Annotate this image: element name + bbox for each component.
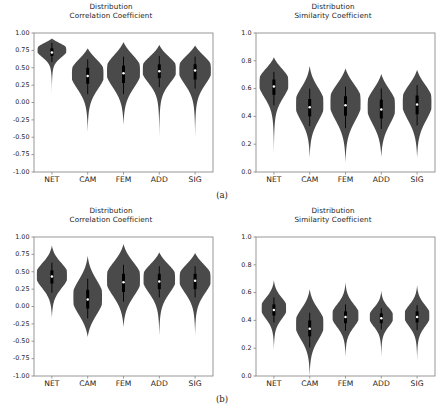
y-tick-label: 1.00 [15, 29, 29, 37]
y-tick-label: 0.6 [241, 84, 251, 92]
panel-b-left: Distribution Correlation Coefficient -1.… [0, 204, 222, 390]
x-tick-label-CAM: CAM [79, 175, 96, 184]
y-tick-label: 0.00 [15, 98, 29, 106]
y-tick-label: -0.50 [13, 337, 30, 345]
violin-median-marker [51, 275, 54, 278]
violin-median-marker [308, 106, 311, 109]
panel-a-right: Distribution Similarity Coefficient 0.00… [222, 0, 444, 186]
violin-median-marker [416, 103, 419, 106]
y-tick-label: 0.6 [241, 288, 251, 296]
violin-ADD [143, 45, 176, 140]
violin-NET [262, 280, 286, 350]
violin-ADD [368, 74, 395, 157]
violin-median-marker [273, 309, 276, 312]
violin-SIG [179, 46, 211, 139]
violin-median-marker [308, 327, 311, 330]
y-tick-label: 0.4 [241, 316, 251, 324]
y-tick-label: 1.0 [241, 233, 251, 241]
y-tick-label: 0.25 [15, 285, 29, 293]
panel-b-right: Distribution Similarity Coefficient 0.00… [222, 204, 444, 390]
violin-ADD [144, 252, 176, 336]
x-tick-label-ADD: ADD [373, 175, 390, 184]
x-tick-label-CAM: CAM [301, 175, 318, 184]
y-tick-label: -0.25 [13, 116, 30, 124]
violin-CAM [72, 48, 104, 132]
y-tick-label: 0.25 [15, 81, 29, 89]
y-tick-label: 0.8 [241, 261, 251, 269]
y-tick-label: -0.50 [13, 133, 30, 141]
x-tick-label-FEM: FEM [338, 379, 354, 388]
violin-chart-a-right: 0.00.20.40.60.81.0NETCAMFEMADDSIG [222, 0, 444, 186]
violin-median-marker [122, 72, 125, 75]
violin-chart-b-left: -1.00-0.75-0.50-0.250.000.250.500.751.00… [0, 204, 222, 390]
x-tick-label-SIG: SIG [189, 379, 202, 388]
y-tick-label: 0.0 [241, 168, 251, 176]
violin-median-marker [86, 75, 89, 78]
violin-FEM [330, 68, 360, 163]
violin-SIG [403, 70, 432, 158]
x-tick-label-NET: NET [44, 175, 59, 184]
violin-SIG [180, 253, 211, 336]
x-tick-label-SIG: SIG [411, 379, 424, 388]
violin-FEM [107, 42, 140, 125]
violin-median-marker [380, 317, 383, 320]
y-tick-label: 0.2 [241, 344, 251, 352]
violin-median-marker [158, 70, 161, 73]
violin-NET [260, 57, 289, 156]
violin-median-marker [380, 108, 383, 111]
subfigure-a: Distribution Correlation Coefficient -1.… [0, 0, 444, 206]
violin-chart-a-left: -1.00-0.75-0.50-0.250.000.250.500.751.00… [0, 0, 222, 186]
y-tick-label: 1.0 [241, 29, 251, 37]
x-tick-label-FEM: FEM [338, 175, 354, 184]
x-tick-label-ADD: ADD [151, 379, 168, 388]
x-tick-label-NET: NET [266, 379, 281, 388]
violin-FEM [333, 282, 359, 357]
x-tick-label-NET: NET [266, 175, 281, 184]
y-tick-label: 0.50 [15, 64, 29, 72]
y-tick-label: -0.75 [13, 150, 30, 158]
violin-FEM [107, 244, 140, 327]
y-tick-label: 0.8 [241, 57, 251, 65]
violin-median-marker [158, 280, 161, 283]
y-tick-label: -0.25 [13, 320, 30, 328]
x-tick-label-CAM: CAM [79, 379, 96, 388]
violin-CAM [73, 256, 102, 337]
violin-plot-figure: Distribution Correlation Coefficient -1.… [0, 0, 444, 413]
subfigure-caption-b: (b) [0, 394, 444, 404]
y-tick-label: 0.2 [241, 140, 251, 148]
violin-median-marker [194, 69, 197, 72]
y-tick-label: -1.00 [13, 372, 30, 380]
y-tick-label: 0.0 [241, 372, 251, 380]
violin-median-marker [344, 104, 347, 107]
violin-median-marker [51, 51, 54, 54]
x-tick-label-FEM: FEM [116, 175, 132, 184]
violin-median-marker [194, 280, 197, 283]
violin-NET [37, 245, 67, 318]
violin-ADD [370, 291, 393, 358]
x-tick-label-NET: NET [44, 379, 59, 388]
x-tick-label-ADD: ADD [373, 379, 390, 388]
y-tick-label: 0.00 [15, 302, 29, 310]
y-tick-label: 0.4 [241, 112, 251, 120]
violin-CAM [296, 289, 323, 376]
violin-median-marker [86, 298, 89, 301]
violin-NET [38, 39, 67, 100]
x-tick-label-SIG: SIG [189, 175, 202, 184]
y-tick-label: 0.75 [15, 250, 29, 258]
violin-median-marker [273, 85, 276, 88]
y-tick-label: -1.00 [13, 168, 30, 176]
x-tick-label-SIG: SIG [411, 175, 424, 184]
x-tick-label-FEM: FEM [116, 379, 132, 388]
violin-median-marker [122, 281, 125, 284]
y-tick-label: 0.50 [15, 268, 29, 276]
violin-SIG [405, 285, 429, 361]
x-tick-label-ADD: ADD [151, 175, 168, 184]
panel-a-left: Distribution Correlation Coefficient -1.… [0, 0, 222, 186]
violin-iqr-box [194, 64, 197, 79]
y-tick-label: 0.75 [15, 46, 29, 54]
subfigure-caption-a: (a) [0, 190, 444, 200]
y-tick-label: -0.75 [13, 354, 30, 362]
x-tick-label-CAM: CAM [301, 379, 318, 388]
subfigure-b: Distribution Correlation Coefficient -1.… [0, 204, 444, 410]
y-tick-label: 1.00 [15, 233, 29, 241]
